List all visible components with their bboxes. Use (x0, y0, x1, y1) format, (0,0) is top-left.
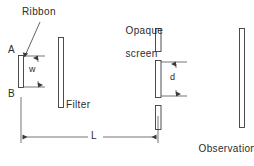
ribbon-bar (19, 56, 24, 88)
ribbon-leader-line (23, 22, 40, 57)
opaque-screen-label-line1: Opaque (126, 25, 164, 36)
distance-l-label: L (91, 130, 97, 142)
slit-separation-label: d (170, 72, 175, 83)
observation-screen-bar (240, 29, 245, 128)
point-a-label: A (8, 44, 15, 56)
ribbon-label: Ribbon (22, 6, 56, 18)
filter-bar (59, 38, 64, 108)
filter-label: Filter (66, 99, 90, 111)
point-b-label: B (8, 88, 15, 100)
observation-screen-label: Observation screen (186, 131, 252, 166)
optics-diagram-figure: Ribbon A B w Filter Opaque screen d L Ob… (0, 0, 254, 166)
opaque-screen-middle-bar (156, 61, 162, 98)
ribbon-width-label: w (29, 64, 36, 75)
opaque-screen-label-line2: screen (126, 48, 158, 59)
opaque-screen-label: Opaque screen (113, 13, 153, 72)
observation-screen-label-line1: Observation (199, 143, 254, 154)
